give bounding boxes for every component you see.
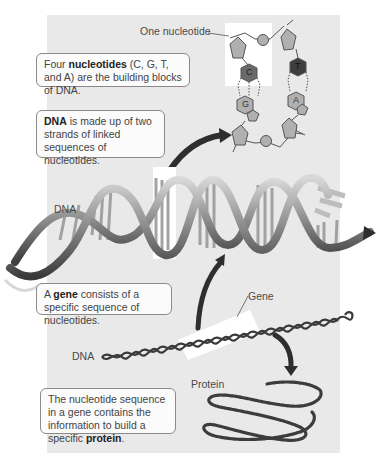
arrow-to-helix <box>198 262 221 328</box>
caption-keyword: protein <box>86 432 122 444</box>
base-a-label: A <box>293 95 299 105</box>
caption-gene: A gene consists of a specific sequence o… <box>36 283 172 315</box>
arrow-to-protein <box>275 335 291 368</box>
dna-double-helix <box>0 178 376 300</box>
one-nucleotide-label: One nucleotide <box>140 25 211 37</box>
gene-label: Gene <box>248 290 274 302</box>
caption-dna: DNA is made up of two strands of linked … <box>36 110 165 158</box>
caption-text: A <box>44 288 53 300</box>
base-t-label: T <box>295 61 301 71</box>
caption-text: Four <box>44 58 69 70</box>
base-g-label: G <box>242 99 249 109</box>
dna-lower-label: DNA <box>72 350 94 362</box>
caption-keyword: DNA <box>44 115 67 127</box>
protein-chain <box>204 382 321 440</box>
arrow-to-nucleotides <box>170 135 222 170</box>
caption-keyword: nucleotides <box>69 58 127 70</box>
caption-protein: The nucleotide sequence in a gene contai… <box>40 388 176 434</box>
base-c-label: C <box>246 67 253 77</box>
caption-nucleotides: Four nucleotides (C, G, T, and A) are th… <box>36 53 190 87</box>
caption-text: . <box>122 432 125 444</box>
dna-helix-label: DNA <box>54 203 76 215</box>
caption-keyword: gene <box>53 288 78 300</box>
protein-label: Protein <box>191 378 224 390</box>
